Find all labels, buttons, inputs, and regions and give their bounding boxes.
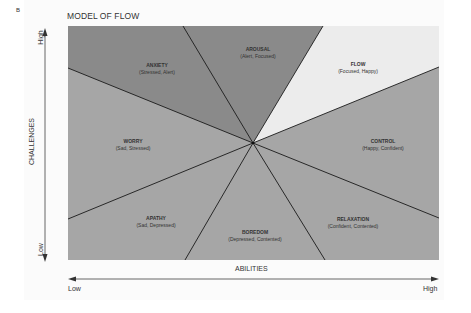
x-axis-title: ABILITIES	[235, 265, 268, 272]
region-apathy: APATHY (Sad, Depressed)	[136, 215, 175, 229]
region-control: CONTROL (Happy, Confident)	[362, 138, 404, 152]
x-axis-high-label: High	[423, 285, 437, 292]
y-axis-high-label: High	[37, 24, 44, 52]
region-relaxation: RELAXATION (Confident, Contented)	[328, 216, 379, 230]
region-anxiety: ANXIETY (Stressed, Alert)	[139, 62, 175, 76]
y-axis-title: CHALLENGES	[28, 112, 35, 172]
x-axis-low-label: Low	[68, 285, 81, 292]
region-boredom: BOREDOM (Depressed, Contented)	[228, 229, 281, 243]
y-axis-low-label: Low	[37, 236, 44, 264]
center-point	[252, 142, 254, 144]
arrow-left-icon	[68, 277, 76, 282]
region-flow: FLOW (Focused, Happy)	[338, 61, 378, 75]
region-worry: WORRY (Sad, Stressed)	[116, 138, 151, 152]
region-arousal: AROUSAL (Alert, Focused)	[240, 46, 276, 60]
arrow-right-icon	[431, 277, 439, 282]
